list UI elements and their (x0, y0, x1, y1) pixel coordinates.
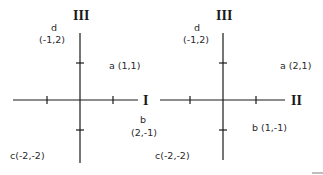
right-point-b: b (1,-1) (252, 122, 287, 133)
right-point-d-coords: (-1,2) (176, 34, 216, 45)
right-point-c: c(-2,-2) (155, 150, 190, 161)
left-point-a: a (1,1) (109, 60, 140, 71)
right-point-a: a (2,1) (280, 60, 311, 71)
left-point-d-name: d (36, 22, 72, 33)
right-point-d-name: d (179, 22, 215, 33)
left-point-b-name: b (128, 114, 158, 125)
left-point-d-coords: (-1,2) (32, 34, 72, 45)
left-vertical-axis-label: III (73, 9, 89, 23)
left-point-b-coords: (2,-1) (126, 127, 162, 138)
right-horizontal-axis-label: II (291, 94, 302, 108)
left-point-c: c(-2,-2) (10, 150, 45, 161)
left-horizontal-axis-label: I (143, 94, 148, 108)
right-vertical-axis-label: III (216, 9, 232, 23)
